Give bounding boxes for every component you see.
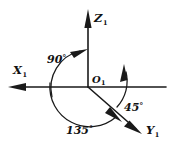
angle-135-value: 135 <box>66 124 89 137</box>
x-axis-label-subscript: 1 <box>22 71 27 79</box>
angle-45-label: 45° <box>124 100 143 115</box>
x-axis <box>8 83 166 91</box>
figure-canvas: X1 Z1 Y1 O1 90° 135° 45° <box>0 0 169 152</box>
x-axis-label-text: X <box>12 63 23 77</box>
x-axis-label: X1 <box>12 63 27 79</box>
angle-135-arc-path <box>50 83 116 127</box>
angle-90-label: 90° <box>47 52 66 67</box>
z-axis-label-text: Z <box>93 11 103 25</box>
angle-45-degree-symbol: ° <box>139 100 143 110</box>
x-axis-arrowhead <box>8 83 26 91</box>
coordinate-axis-diagram: X1 Z1 Y1 O1 90° 135° 45° <box>0 0 169 152</box>
z-axis-label: Z1 <box>93 11 107 27</box>
z-axis-arrowhead <box>84 9 91 28</box>
angle-135-label: 135° <box>66 123 93 138</box>
angle-45-value: 45 <box>124 101 139 114</box>
angle-90-arrowhead <box>70 49 88 58</box>
angle-90-value: 90 <box>47 53 63 66</box>
z-axis-label-subscript: 1 <box>103 19 108 27</box>
y-axis-label-subscript: 1 <box>155 131 160 139</box>
origin-label-subscript: 1 <box>101 79 106 87</box>
y-axis-label: Y1 <box>146 123 159 139</box>
origin-label: O1 <box>92 74 106 87</box>
angle-135-arc <box>50 83 122 127</box>
origin-label-text: O <box>92 74 101 85</box>
z-axis <box>84 9 91 87</box>
y-axis-arrowhead <box>124 121 142 135</box>
angle-90-degree-symbol: ° <box>62 52 66 62</box>
angle-135-degree-symbol: ° <box>89 123 93 133</box>
